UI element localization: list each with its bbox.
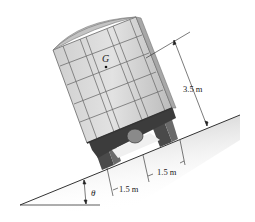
truck-on-slope-diagram: G 3.5 m 1.5 m 1.5 m θ [0, 0, 255, 222]
right-offset-label: 1.5 m [157, 167, 177, 177]
axle-differential [127, 129, 143, 143]
left-offset-label: 1.5 m [119, 184, 139, 194]
theta-label: θ [91, 188, 96, 198]
height-label: 3.5 m [183, 84, 203, 94]
g-label: G [102, 53, 109, 64]
